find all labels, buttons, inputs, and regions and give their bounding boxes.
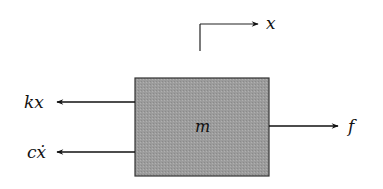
mass-label: m [195,117,210,136]
displacement-arrow [200,24,258,51]
displacement-label: x [266,13,276,33]
spring-force-label: kx [24,92,44,112]
applied-force-label: f [346,116,357,136]
free-body-diagram: x m kx cẋ f [0,0,383,189]
damper-force-label: cẋ [27,142,47,162]
